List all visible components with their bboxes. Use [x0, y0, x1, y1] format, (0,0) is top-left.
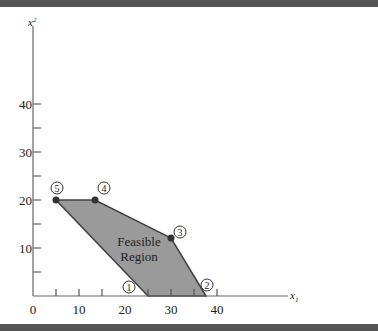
vertex-2-label: 2	[205, 280, 210, 291]
vertex-4-label: 4	[102, 183, 107, 194]
x-tick-30: 30	[165, 302, 178, 317]
y-axis-label: x2	[27, 16, 37, 28]
x-axis-label: x1	[289, 289, 298, 304]
y-ticks	[33, 104, 41, 272]
vertex-1-label: 1	[127, 282, 132, 293]
y-tick-10: 10	[19, 241, 32, 256]
x-tick-10: 10	[73, 302, 86, 317]
y-tick-20: 20	[19, 193, 32, 208]
y-tick-30: 30	[19, 145, 32, 160]
vertex-5-label: 5	[55, 183, 60, 194]
x-tick-20: 20	[119, 302, 132, 317]
y-tick-40: 40	[19, 97, 32, 112]
x-tick-0: 0	[30, 302, 37, 317]
region-label-line1: Feasible	[117, 234, 161, 249]
vertex-3-label: 3	[178, 227, 183, 238]
x-tick-40: 40	[211, 302, 224, 317]
region-label-line2: Region	[120, 249, 158, 264]
feasible-region-chart: 40 30 20 10 0 10 20 30 40 x2 x1 Feasible…	[0, 0, 378, 331]
